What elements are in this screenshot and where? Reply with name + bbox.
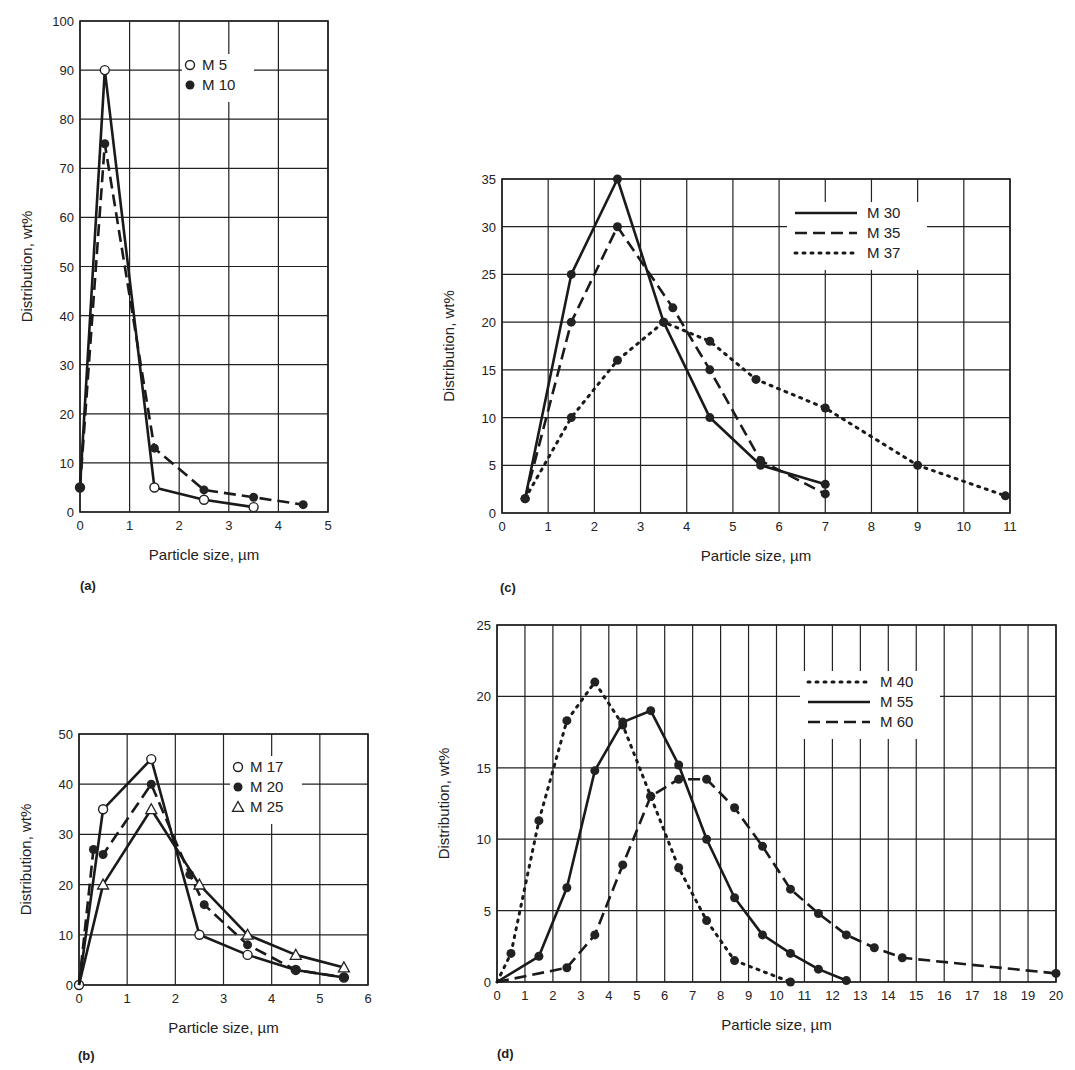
filled-circle-marker xyxy=(534,952,543,961)
svg-text:5: 5 xyxy=(729,519,736,534)
y-tick-labels: 01020304050 xyxy=(59,727,73,993)
svg-text:70: 70 xyxy=(60,161,74,176)
svg-text:5: 5 xyxy=(484,904,491,919)
series-line xyxy=(79,809,344,985)
filled-circle-marker xyxy=(590,930,599,939)
svg-text:3: 3 xyxy=(637,519,644,534)
svg-text:16: 16 xyxy=(937,988,951,1003)
filled-circle-marker xyxy=(590,678,599,687)
svg-text:9: 9 xyxy=(745,988,752,1003)
filled-circle-marker xyxy=(590,766,599,775)
filled-circle-marker xyxy=(613,356,622,365)
svg-text:5: 5 xyxy=(489,458,496,473)
svg-text:3: 3 xyxy=(225,518,232,533)
filled-circle-marker xyxy=(89,845,98,854)
open-circle-marker xyxy=(234,763,243,772)
filled-circle-marker xyxy=(1052,969,1061,978)
x-axis-label: Particle size, µm xyxy=(168,1019,278,1036)
open-circle-marker xyxy=(195,930,204,939)
svg-text:6: 6 xyxy=(661,988,668,1003)
filled-circle-marker xyxy=(842,976,851,985)
filled-circle-marker xyxy=(618,718,627,727)
svg-text:30: 30 xyxy=(482,220,496,235)
svg-text:10: 10 xyxy=(477,832,491,847)
filled-circle-marker xyxy=(913,461,922,470)
svg-text:25: 25 xyxy=(482,267,496,282)
filled-circle-marker xyxy=(659,318,668,327)
chart-panel-a: 0123450102030405060708090100Particle siz… xyxy=(18,14,332,593)
filled-circle-marker xyxy=(521,494,530,503)
filled-circle-marker xyxy=(756,456,765,465)
svg-text:100: 100 xyxy=(52,14,74,29)
filled-circle-marker xyxy=(291,965,300,974)
svg-text:1: 1 xyxy=(124,991,131,1006)
svg-text:1: 1 xyxy=(545,519,552,534)
series-line xyxy=(80,144,303,505)
filled-circle-marker xyxy=(674,863,683,872)
figure-canvas: 0123450102030405060708090100Particle siz… xyxy=(0,0,1075,1070)
open-circle-marker xyxy=(100,66,109,75)
filled-circle-marker xyxy=(898,953,907,962)
x-tick-labels: 01234567891011 xyxy=(498,519,1016,534)
filled-circle-marker xyxy=(567,413,576,422)
filled-circle-marker xyxy=(821,489,830,498)
filled-circle-marker xyxy=(730,956,739,965)
svg-text:80: 80 xyxy=(60,112,74,127)
open-circle-marker xyxy=(200,495,209,504)
svg-text:1: 1 xyxy=(521,988,528,1003)
series-m-5 xyxy=(76,66,259,512)
series-m-40 xyxy=(497,678,795,987)
svg-text:7: 7 xyxy=(689,988,696,1003)
legend-entry: M 30 xyxy=(867,204,900,221)
filled-circle-marker xyxy=(567,318,576,327)
svg-text:50: 50 xyxy=(60,260,74,275)
filled-circle-marker xyxy=(821,480,830,489)
x-axis-label: Particle size, µm xyxy=(721,1016,831,1033)
filled-circle-marker xyxy=(752,375,761,384)
filled-circle-marker xyxy=(730,893,739,902)
svg-text:5: 5 xyxy=(324,518,331,533)
svg-text:0: 0 xyxy=(493,988,500,1003)
plot-frame xyxy=(502,179,1010,513)
legend-entry: M 60 xyxy=(880,713,913,730)
filled-circle-marker xyxy=(646,792,655,801)
svg-text:10: 10 xyxy=(59,928,73,943)
svg-text:20: 20 xyxy=(59,878,73,893)
open-circle-marker xyxy=(147,755,156,764)
filled-circle-marker xyxy=(674,760,683,769)
legend-entry: M 10 xyxy=(202,76,235,93)
series-m-20 xyxy=(79,780,348,985)
open-circle-marker xyxy=(249,503,258,512)
svg-text:4: 4 xyxy=(683,519,690,534)
svg-text:12: 12 xyxy=(825,988,839,1003)
legend-entry: M 25 xyxy=(250,798,283,815)
svg-text:40: 40 xyxy=(59,777,73,792)
filled-circle-marker xyxy=(200,485,209,494)
x-tick-labels: 012345 xyxy=(76,518,331,533)
filled-circle-marker xyxy=(702,835,711,844)
svg-text:20: 20 xyxy=(482,315,496,330)
filled-circle-marker xyxy=(842,930,851,939)
legend-entry: M 37 xyxy=(867,244,900,261)
svg-text:25: 25 xyxy=(477,618,491,633)
svg-text:8: 8 xyxy=(868,519,875,534)
svg-text:19: 19 xyxy=(1021,988,1035,1003)
gridlines xyxy=(502,179,1010,513)
filled-circle-marker xyxy=(814,965,823,974)
filled-circle-marker xyxy=(674,775,683,784)
legend-entry: M 35 xyxy=(867,224,900,241)
y-tick-labels: 05101520253035 xyxy=(482,172,496,521)
series-line xyxy=(80,70,254,507)
svg-text:1: 1 xyxy=(126,518,133,533)
panel-label: (a) xyxy=(80,578,96,593)
series-line xyxy=(525,227,825,499)
svg-text:11: 11 xyxy=(798,988,812,1003)
series-line xyxy=(525,322,1005,499)
filled-circle-marker xyxy=(821,404,830,413)
svg-text:5: 5 xyxy=(633,988,640,1003)
svg-text:2: 2 xyxy=(172,991,179,1006)
svg-text:10: 10 xyxy=(482,411,496,426)
gridlines xyxy=(497,625,1056,982)
filled-circle-marker xyxy=(668,303,677,312)
svg-text:0: 0 xyxy=(484,975,491,990)
